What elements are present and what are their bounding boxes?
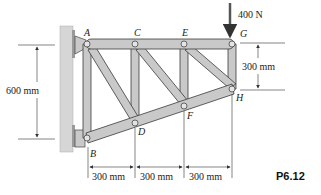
- dimension-label-right: 300 mm: [242, 61, 275, 72]
- joint-label-h: H: [235, 92, 244, 103]
- member-ab: [83, 44, 91, 138]
- dimension-label-left: 600 mm: [6, 85, 39, 96]
- dimension-label-span-2: 300 mm: [140, 171, 173, 182]
- pin-h: [229, 86, 235, 92]
- wall-support: [60, 26, 75, 152]
- pin-c: [132, 41, 138, 47]
- member-bottom-chord: [86, 84, 234, 143]
- joint-label-f: F: [186, 110, 194, 121]
- truss-figure: A C E G B D F H 400 N 600 mm 300 mm 300: [0, 0, 321, 195]
- joint-label-b: B: [90, 148, 96, 159]
- pin-g: [229, 41, 235, 47]
- dimension-label-span-1: 300 mm: [92, 171, 125, 182]
- pin-f: [181, 103, 187, 109]
- joint-label-c: C: [134, 27, 141, 38]
- joint-label-d: D: [137, 126, 146, 137]
- figure-label: P6.12: [276, 170, 305, 182]
- dimension-label-span-3: 300 mm: [189, 171, 222, 182]
- load-label: 400 N: [238, 9, 263, 20]
- joint-label-a: A: [83, 27, 91, 38]
- pin-a: [84, 41, 90, 47]
- pin-e: [181, 41, 187, 47]
- member-top-chord: [86, 39, 234, 49]
- joint-label-e: E: [181, 27, 188, 38]
- joint-label-g: G: [240, 28, 247, 39]
- truss-members: [83, 39, 236, 143]
- pin-b: [84, 135, 90, 141]
